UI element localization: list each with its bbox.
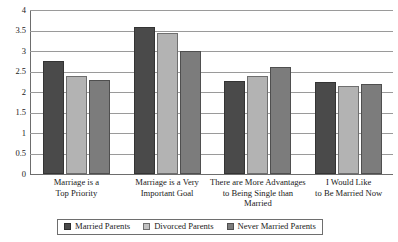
legend-item: Never Married Parents bbox=[227, 222, 316, 231]
y-axis-tick-label: 3 bbox=[0, 47, 26, 56]
bar bbox=[247, 76, 268, 174]
category-label-line: I Would Like bbox=[291, 177, 398, 188]
bar bbox=[180, 51, 201, 174]
bar bbox=[338, 86, 359, 174]
bar-group bbox=[122, 10, 213, 174]
y-axis-tick-label: 1 bbox=[0, 129, 26, 138]
bar bbox=[361, 84, 382, 174]
legend-item: Divorced Parents bbox=[143, 222, 213, 231]
legend-swatch-icon bbox=[227, 223, 234, 230]
bar-group bbox=[31, 10, 122, 174]
legend-swatch-icon bbox=[143, 223, 150, 230]
bar bbox=[89, 80, 110, 174]
bar-groups bbox=[31, 10, 393, 174]
bar bbox=[43, 61, 64, 174]
bar-group bbox=[303, 10, 394, 174]
y-axis-tick-label: 2 bbox=[0, 88, 26, 97]
legend-label: Divorced Parents bbox=[154, 222, 213, 231]
bar-group bbox=[213, 10, 304, 174]
bar bbox=[315, 82, 336, 174]
gridline bbox=[30, 174, 393, 175]
y-axis-tick-label: 4 bbox=[0, 6, 26, 15]
x-axis-category-label: I Would Liketo Be Married Now bbox=[291, 177, 398, 198]
y-axis-tick-label: 1.5 bbox=[0, 108, 26, 117]
chart-legend: Married ParentsDivorced ParentsNever Mar… bbox=[57, 219, 323, 235]
y-axis-tick-label: 3.5 bbox=[0, 26, 26, 35]
legend-label: Never Married Parents bbox=[238, 222, 316, 231]
y-axis-tick-label: 0.5 bbox=[0, 149, 26, 158]
legend-swatch-icon bbox=[64, 223, 71, 230]
bar bbox=[134, 27, 155, 174]
bar bbox=[66, 76, 87, 174]
category-label-line: to Be Married Now bbox=[291, 188, 398, 199]
bar bbox=[270, 67, 291, 174]
grouped-bar-chart: 43.532.521.510.50 Marriage is aTop Prior… bbox=[0, 0, 398, 242]
y-axis-tick-label: 2.5 bbox=[0, 67, 26, 76]
x-axis-category-labels: Marriage is aTop PriorityMarriage is a V… bbox=[31, 177, 393, 213]
legend-label: Married Parents bbox=[75, 222, 130, 231]
bar bbox=[157, 33, 178, 174]
bar bbox=[224, 81, 245, 174]
category-label-line: Married bbox=[201, 198, 316, 209]
legend-item: Married Parents bbox=[64, 222, 130, 231]
